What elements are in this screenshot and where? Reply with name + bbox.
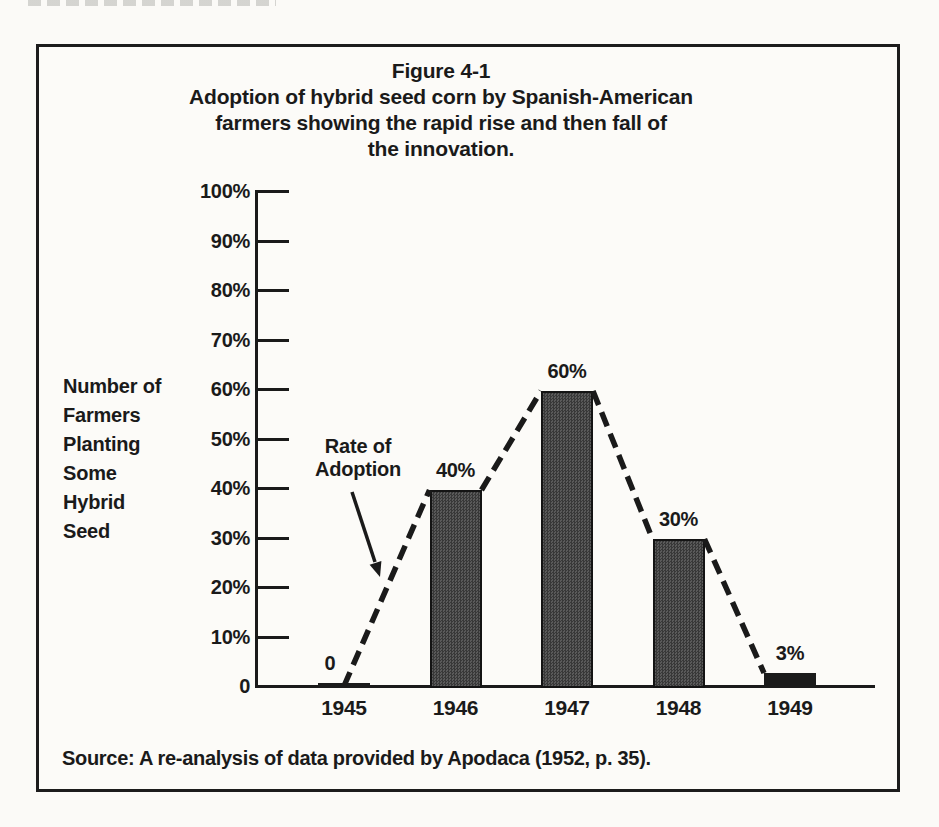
y-tick — [258, 339, 289, 342]
text-line: Rate of — [298, 435, 418, 458]
x-tick-label: 1949 — [745, 696, 835, 720]
bar-1948 — [653, 539, 705, 688]
bar-value-label: 3% — [745, 641, 835, 665]
y-tick — [258, 190, 289, 193]
y-tick-label: 80% — [130, 277, 250, 303]
y-tick — [258, 487, 289, 490]
y-tick-label: 40% — [130, 475, 250, 501]
y-tick-label: 70% — [130, 327, 250, 353]
text-line: Adoption of hybrid seed corn by Spanish-… — [36, 84, 846, 110]
bar-1946 — [430, 490, 482, 688]
y-tick — [258, 586, 289, 589]
figure-title-block: Figure 4-1 Adoption of hybrid seed corn … — [36, 58, 846, 162]
y-tick — [258, 289, 289, 292]
figure-caption: Adoption of hybrid seed corn by Spanish-… — [36, 84, 846, 162]
bar-value-label: 30% — [634, 507, 724, 531]
y-tick — [258, 636, 289, 639]
y-tick-label: 100% — [130, 178, 250, 204]
y-tick — [258, 388, 289, 391]
bar-1945 — [318, 683, 370, 688]
y-tick — [258, 240, 289, 243]
bar-1949 — [764, 673, 816, 688]
y-tick-label: 30% — [130, 525, 250, 551]
x-tick-label: 1945 — [299, 696, 389, 720]
y-tick-label: 0 — [130, 673, 266, 699]
y-tick-label: 10% — [130, 624, 250, 650]
bar-value-label: 40% — [411, 458, 501, 482]
text-line: the innovation. — [36, 136, 846, 162]
y-tick-label: 50% — [130, 426, 250, 452]
y-tick — [258, 537, 289, 540]
bar-value-label: 60% — [522, 359, 612, 383]
rate-of-adoption-label: Rate ofAdoption — [298, 435, 418, 481]
x-tick-label: 1947 — [522, 696, 612, 720]
x-tick-label: 1948 — [634, 696, 724, 720]
y-tick — [258, 438, 289, 441]
y-tick-label: 60% — [130, 376, 250, 402]
figure-number: Figure 4-1 — [36, 58, 846, 84]
bar-value-label: 0 — [285, 651, 375, 675]
source-note: Source: A re-analysis of data provided b… — [62, 747, 651, 770]
bar-1947 — [541, 391, 593, 688]
cropped-text-fragment — [28, 0, 276, 6]
text-line: Adoption — [298, 458, 418, 481]
y-tick-label: 90% — [130, 228, 250, 254]
x-tick-label: 1946 — [411, 696, 501, 720]
text-line: farmers showing the rapid rise and then … — [36, 110, 846, 136]
scanned-page: Figure 4-1 Adoption of hybrid seed corn … — [0, 0, 939, 827]
y-tick-label: 20% — [130, 574, 250, 600]
